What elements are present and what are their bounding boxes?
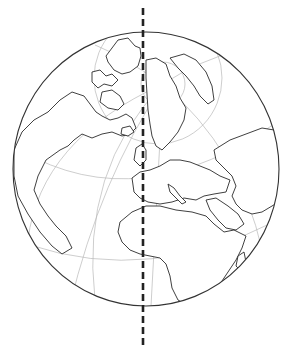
continents: [14, 38, 282, 306]
arctic-islands-outline: [92, 70, 118, 88]
greenland-outline: [106, 38, 141, 74]
baffin-island-outline: [100, 90, 124, 110]
scandinavia-outline: [146, 58, 186, 150]
globe-figure: [0, 0, 282, 355]
asia-outline: [214, 128, 282, 214]
globe-svg: [0, 0, 282, 355]
